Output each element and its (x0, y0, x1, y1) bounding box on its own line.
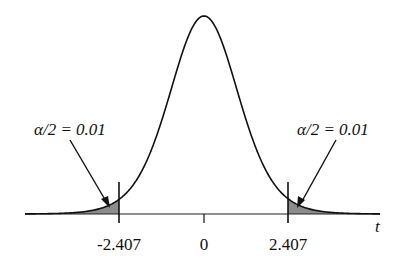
density-curve (25, 16, 380, 214)
axis-variable-label: t (375, 217, 381, 236)
left-arrow-line (70, 140, 107, 203)
tick-label-left: -2.407 (97, 235, 141, 254)
right-arrow-line (301, 140, 336, 203)
t-distribution-diagram: α/2 = 0.01 α/2 = 0.01 -2.407 0 2.407 t (0, 0, 406, 270)
tick-label-right: 2.407 (269, 235, 308, 254)
left-annotation: α/2 = 0.01 (34, 120, 106, 139)
right-annotation: α/2 = 0.01 (297, 120, 369, 139)
tick-label-center: 0 (200, 235, 209, 254)
